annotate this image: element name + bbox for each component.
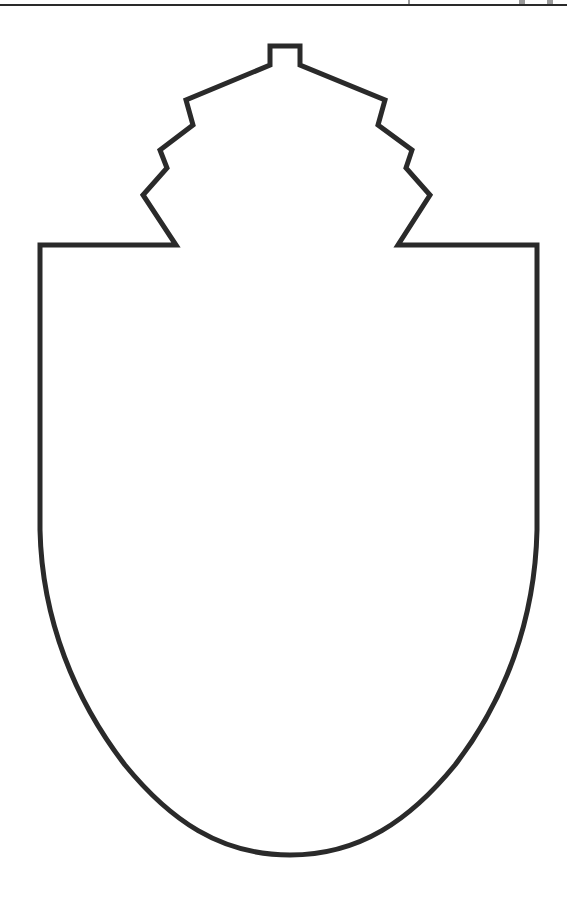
shield-outline-path — [40, 46, 537, 855]
shield-outline-figure — [0, 0, 567, 900]
